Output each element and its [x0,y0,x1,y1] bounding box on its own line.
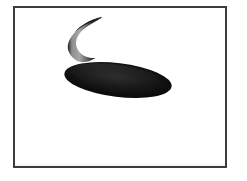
canvas-area [15,8,225,166]
picture-frame [13,6,227,168]
screenshot-root [0,0,247,181]
crescent-shape-group [68,17,102,62]
ellipse-shape-group [62,57,173,104]
shapes-canvas [15,8,225,166]
